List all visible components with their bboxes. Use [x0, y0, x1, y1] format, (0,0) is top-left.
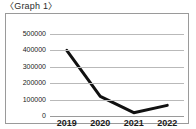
gridline-300000	[50, 67, 184, 68]
y-tick-label: 500000	[6, 30, 46, 37]
gridline-400000	[50, 50, 184, 51]
y-tick-label: 200000	[6, 79, 46, 86]
x-axis: 2019202020212022	[50, 118, 184, 129]
y-tick-label: 300000	[6, 63, 46, 70]
x-tick-label: 2019	[57, 118, 77, 129]
x-tick-label: 2020	[90, 118, 110, 129]
x-tick-label: 2022	[157, 118, 177, 129]
x-tick-label: 2021	[124, 118, 144, 129]
chart-screenshot: 〈Graph 1〉 500000400000300000200000100000…	[0, 0, 196, 129]
plot-area: 5000004000003000002000001000000	[50, 34, 184, 116]
line-series	[50, 34, 184, 116]
gridline-500000	[50, 34, 184, 35]
gridline-200000	[50, 83, 184, 84]
y-tick-label: 400000	[6, 46, 46, 53]
page-title: 〈Graph 1〉	[5, 1, 57, 12]
y-tick-label: 100000	[6, 96, 46, 103]
chart-frame: 5000004000003000002000001000000 20192020…	[5, 13, 189, 124]
gridline-0	[50, 116, 184, 117]
gridline-100000	[50, 100, 184, 101]
series-1-line	[67, 50, 168, 112]
y-tick-label: 0	[6, 112, 46, 119]
